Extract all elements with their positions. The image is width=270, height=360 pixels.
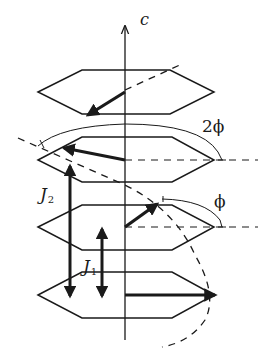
spin-arrow-layer-1 bbox=[88, 92, 125, 115]
j2-label-main: J bbox=[40, 184, 47, 204]
hexagon-layer-1 bbox=[38, 70, 214, 114]
angle-arc-2phi bbox=[38, 124, 226, 160]
angle-2phi-label: 2ϕ bbox=[202, 118, 224, 135]
angle-phi-label: ϕ bbox=[214, 193, 226, 210]
c-axis-label: c bbox=[140, 12, 149, 28]
helical-spin-diagram bbox=[0, 0, 270, 360]
j2-label: J2 bbox=[40, 186, 54, 205]
j1-label: J1 bbox=[83, 258, 97, 277]
j2-label-sub: 2 bbox=[48, 194, 54, 205]
spin-arrow-layer-2 bbox=[64, 148, 125, 160]
j1-label-main: J bbox=[83, 256, 90, 276]
spin-arrow-layer-3 bbox=[125, 204, 157, 227]
j1-label-sub: 1 bbox=[91, 266, 97, 277]
